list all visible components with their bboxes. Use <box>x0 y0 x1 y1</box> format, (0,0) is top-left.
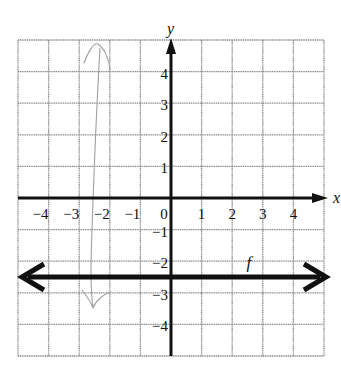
coordinate-plane: −4−3−2−1012344321−1−2−3−4 xyf <box>0 0 341 368</box>
y-tick-label: 4 <box>161 66 169 82</box>
x-tick-label: 0 <box>160 206 168 222</box>
y-tick-label: 2 <box>161 129 169 145</box>
function-f-line <box>22 264 326 290</box>
axes <box>18 38 328 356</box>
y-tick-label: 3 <box>161 97 169 113</box>
x-axis-label: x <box>332 189 340 206</box>
function-f-label: f <box>247 253 254 272</box>
pencil-stroke <box>82 44 111 308</box>
y-tick-label: −2 <box>152 255 168 271</box>
x-tick-label: 2 <box>228 206 236 222</box>
tick-labels: −4−3−2−1012344321−1−2−3−4 <box>33 66 298 335</box>
x-tick-label: −3 <box>63 206 79 222</box>
y-tick-label: −3 <box>152 287 168 303</box>
y-tick-label: −4 <box>152 318 168 334</box>
x-tick-label: 3 <box>259 206 267 222</box>
x-tick-label: −2 <box>94 206 110 222</box>
x-tick-label: 1 <box>198 206 206 222</box>
x-tick-label: −4 <box>33 206 49 222</box>
y-tick-label: 1 <box>161 160 169 176</box>
x-tick-label: 4 <box>290 206 298 222</box>
x-tick-label: −1 <box>124 206 140 222</box>
y-axis-label: y <box>165 20 175 38</box>
x-axis-arrow-icon <box>312 193 328 203</box>
pencil-mark <box>82 44 111 308</box>
axis-labels: xyf <box>165 20 340 272</box>
y-tick-label: −1 <box>152 224 168 240</box>
